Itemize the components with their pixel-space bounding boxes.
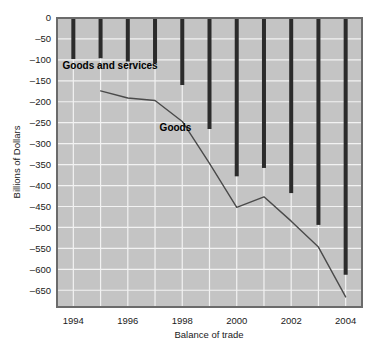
x-tick-label: 2002: [281, 315, 302, 326]
balance-of-trade-chart: 0–50–100–150–200–250–300–350–400–450–500…: [0, 0, 392, 350]
bar-goods-and-services: [235, 18, 239, 176]
x-axis-title: Balance of trade: [174, 329, 243, 340]
x-tick-label: 2004: [335, 315, 356, 326]
y-tick-label: –550: [30, 243, 51, 254]
y-tick-label: –100: [30, 54, 51, 65]
y-tick-label: –350: [30, 159, 51, 170]
bar-goods-and-services: [126, 18, 130, 62]
y-tick-label: –250: [30, 117, 51, 128]
series-annotation: Goods and services: [63, 60, 158, 71]
chart-svg: 0–50–100–150–200–250–300–350–400–450–500…: [0, 0, 392, 350]
bar-goods-and-services: [99, 18, 103, 58]
y-tick-label: –650: [30, 285, 51, 296]
bar-goods-and-services: [344, 18, 348, 275]
bar-goods-and-services: [71, 18, 75, 59]
x-tick-label: 2000: [226, 315, 247, 326]
y-tick-label: –50: [35, 33, 51, 44]
series-annotation: Goods: [160, 122, 192, 133]
x-tick-label: 1998: [172, 315, 193, 326]
y-tick-label: –400: [30, 180, 51, 191]
y-tick-label: –150: [30, 75, 51, 86]
x-tick-label: 1996: [117, 315, 138, 326]
bar-goods-and-services: [208, 18, 212, 129]
x-tick-label: 1994: [63, 315, 84, 326]
y-tick-label: –450: [30, 201, 51, 212]
y-axis-title: Billions of Dollars: [11, 125, 22, 198]
bar-goods-and-services: [262, 18, 266, 168]
bar-goods-and-services: [289, 18, 293, 193]
y-tick-label: –200: [30, 96, 51, 107]
y-tick-label: –600: [30, 264, 51, 275]
y-tick-label: –300: [30, 138, 51, 149]
bar-goods-and-services: [180, 18, 184, 85]
bar-goods-and-services: [316, 18, 320, 225]
y-tick-label: 0: [46, 12, 51, 23]
bar-goods-and-services: [153, 18, 157, 63]
y-tick-label: –500: [30, 222, 51, 233]
